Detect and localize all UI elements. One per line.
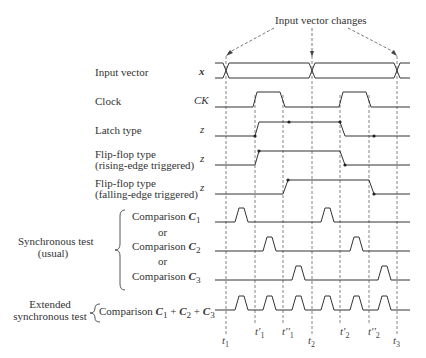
c2-wave xyxy=(215,237,410,251)
time-label-t2p: t'2 xyxy=(340,325,349,340)
time-label-t3: t3 xyxy=(393,334,400,349)
time-label-t2pp: t''2 xyxy=(368,325,380,340)
group-sync-sub: (usual) xyxy=(18,247,88,259)
signal-symbol-z: z xyxy=(200,181,204,193)
ff-rising-wave xyxy=(215,151,410,165)
sample-dots xyxy=(253,120,375,195)
comparison-c1-label: Comparison C1 xyxy=(132,210,200,226)
extended-wave xyxy=(215,296,410,310)
latch-wave xyxy=(215,122,410,136)
title-annotation: Input vector changes xyxy=(275,14,367,26)
ff-falling-wave xyxy=(215,180,410,194)
timing-diagram: Input vector changes Input vector x Cloc… xyxy=(0,0,426,358)
comparison-c2-label: Comparison C2 xyxy=(132,240,200,256)
or-label: or xyxy=(158,255,167,267)
signal-symbol-z: z xyxy=(200,123,204,135)
or-label: or xyxy=(158,226,167,238)
group-extended-sub: synchronous test xyxy=(12,310,88,322)
comparison-c3-label: Comparison C3 xyxy=(132,270,200,286)
brace-sync xyxy=(115,210,125,290)
signal-label-latch: Latch type xyxy=(95,124,142,136)
c1-wave xyxy=(215,208,410,222)
signal-label-ff-rising-sub: (rising-edge triggered) xyxy=(95,159,194,171)
c3-wave xyxy=(215,266,410,280)
time-label-t1: t1 xyxy=(222,334,229,349)
arrow-heads xyxy=(226,50,397,57)
signal-symbol-z: z xyxy=(200,152,204,164)
group-sync-label: Synchronous test xyxy=(18,235,88,247)
signal-label-ff-falling-sub: (falling-edge triggered) xyxy=(95,188,198,200)
time-gridlines xyxy=(226,56,397,336)
group-extended-label: Extended xyxy=(12,298,88,310)
time-label-t1p: t'1 xyxy=(255,325,264,340)
signal-symbol-ck: CK xyxy=(194,94,209,106)
signal-label-input: Input vector xyxy=(95,66,148,78)
annotation-arrows xyxy=(228,28,396,53)
time-label-t2: t2 xyxy=(308,334,315,349)
comparison-all-label: Comparison C1 + C2 + C3 xyxy=(99,305,215,321)
time-label-t1pp: t''1 xyxy=(282,325,294,340)
signal-symbol-x: x xyxy=(199,65,205,77)
signal-label-clock: Clock xyxy=(95,95,121,107)
clock-wave xyxy=(215,92,410,107)
